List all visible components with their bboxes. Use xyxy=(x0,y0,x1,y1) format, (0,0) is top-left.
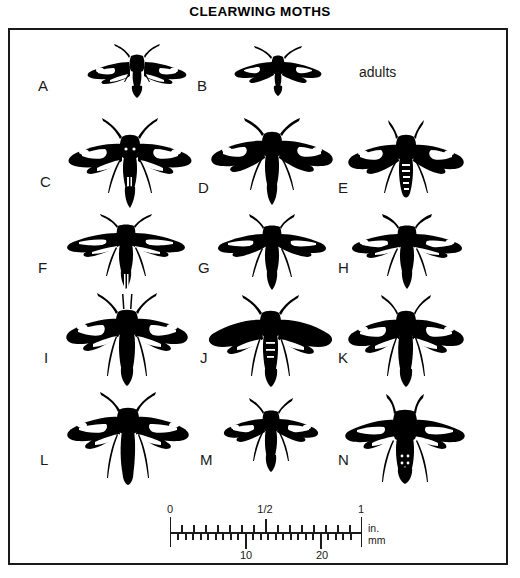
scale-inch-label-0: 0 xyxy=(167,503,173,515)
plate-frame: adults A xyxy=(8,28,508,565)
figure-label-a: A xyxy=(38,78,48,93)
figure-label-f: F xyxy=(38,260,47,275)
moth-illustration-c xyxy=(64,117,196,215)
scale-unit-inches: in. xyxy=(368,522,379,534)
moth-illustration-l xyxy=(60,392,196,486)
moth-illustration-h xyxy=(347,214,467,296)
adults-caption: adults xyxy=(359,64,396,80)
scale-ticks-mm xyxy=(178,533,351,549)
scale-bar: 0 1/2 1 10 20 in. mm xyxy=(152,497,392,565)
figure-label-m: M xyxy=(200,452,213,467)
scale-mm-label-10: 10 xyxy=(240,549,252,561)
scale-ticks-inches xyxy=(182,519,350,533)
moth-illustration-k xyxy=(342,294,470,388)
moth-illustration-i xyxy=(60,292,194,388)
moth-illustration-a xyxy=(82,42,192,104)
page-title: CLEARWING MOTHS xyxy=(0,4,520,19)
moth-illustration-n xyxy=(338,394,470,486)
scale-unit-mm: mm xyxy=(368,534,386,546)
moth-illustration-e xyxy=(342,120,470,214)
figure-label-b: B xyxy=(197,78,207,93)
moth-illustration-d xyxy=(207,116,337,212)
moth-illustration-j xyxy=(205,294,335,388)
figure-label-c: C xyxy=(40,174,51,189)
scale-mm-label-20: 20 xyxy=(316,549,328,561)
figure-label-g: G xyxy=(198,260,210,275)
figure-label-l: L xyxy=(40,452,48,467)
scale-inch-label-1: 1 xyxy=(358,503,364,515)
moth-illustration-f xyxy=(62,212,190,296)
moth-illustration-g xyxy=(212,214,332,296)
moth-illustration-b xyxy=(230,44,326,98)
figure-label-i: I xyxy=(44,350,48,365)
moth-illustration-m xyxy=(220,398,322,476)
scale-inch-label-half: 1/2 xyxy=(257,503,272,515)
